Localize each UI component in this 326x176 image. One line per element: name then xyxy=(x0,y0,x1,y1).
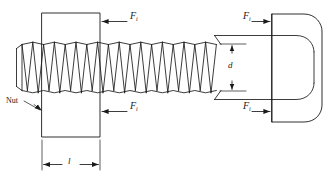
plain-shank xyxy=(215,36,273,100)
bolt-nut-line-drawing xyxy=(0,0,326,176)
dimension-grip-length-l xyxy=(42,140,100,170)
force-label-top-right: Fi xyxy=(243,11,251,21)
force-label-top-left-subscript: i xyxy=(136,16,138,22)
figure-canvas: Fi Fi Fi Fi d l Nut xyxy=(0,0,326,176)
force-label-bottom-right-subscript: i xyxy=(249,106,251,112)
grip-length-label: l xyxy=(68,157,71,166)
diameter-label: d xyxy=(228,61,233,70)
nut-leader-line xyxy=(24,101,42,110)
force-label-bottom-left: Fi xyxy=(130,101,138,111)
force-label-top-left: Fi xyxy=(130,11,138,21)
force-label-bottom-right: Fi xyxy=(243,101,251,111)
force-label-top-right-subscript: i xyxy=(249,16,251,22)
bolt-head xyxy=(272,14,322,122)
force-label-bottom-left-subscript: i xyxy=(136,106,138,112)
dimension-diameter-d xyxy=(220,44,246,91)
nut-label: Nut xyxy=(6,97,18,105)
